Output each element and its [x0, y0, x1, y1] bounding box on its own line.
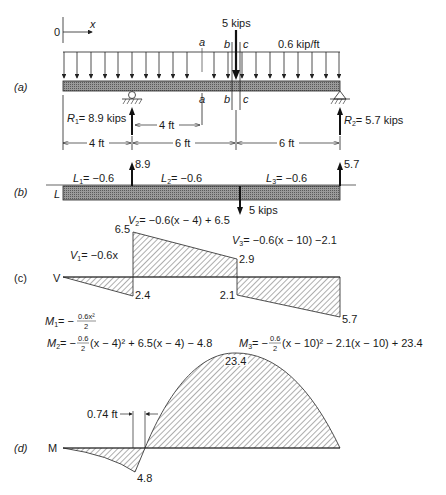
point-load-arrow-icon — [232, 70, 240, 80]
shear-value-2-9: 2.9 — [239, 253, 254, 265]
up-force-right-arrow-icon — [337, 162, 343, 170]
up-force-left-label: 8.9 — [135, 158, 150, 170]
moment-region-positive — [145, 353, 340, 448]
shear-region-2 — [133, 232, 237, 277]
panel-label-b: (b) — [14, 186, 28, 198]
down-force-arrow-icon — [237, 207, 243, 215]
shear-region-1 — [63, 277, 133, 296]
shear-eq-v1: V1= −0.6x — [70, 249, 118, 262]
down-force-label: 5 kips — [249, 204, 278, 216]
svg-text:M3= −: M3= − — [239, 337, 268, 350]
shear-value-2-4: 2.4 — [135, 289, 150, 301]
svg-text:(x − 10)² − 2.1(x − 10) + 23.4: (x − 10)² − 2.1(x − 10) + 23.4 — [282, 337, 423, 349]
moment-eq-m1: M1= − 0.6x² 2 — [45, 312, 96, 331]
zero-crossing-offset-label: 0.74 ft — [87, 408, 118, 420]
section-a-bottom: a — [199, 93, 205, 105]
panel-d-moment: (d) M M2= − 0.6 2 (x − 4)² + 6.5(x − 4) … — [14, 334, 423, 484]
reaction-r2-arrow-icon — [337, 107, 343, 115]
up-force-right-label: 5.7 — [344, 158, 359, 170]
load-l3-label: L3= −0.6 — [266, 172, 307, 185]
load-l1-label: L1= −0.6 — [73, 172, 114, 185]
pin-support-icon — [330, 91, 350, 104]
svg-text:0.6x²: 0.6x² — [78, 312, 95, 321]
panel-label-d: (d) — [14, 442, 28, 454]
section-b-bottom: b — [224, 93, 230, 105]
shear-value-2-1: 2.1 — [220, 289, 235, 301]
reaction-r1-label: R1= 8.9 kips — [67, 112, 127, 125]
dimension-6ft-middle: 6 ft — [175, 137, 190, 149]
shear-value-5-7: 5.7 — [342, 313, 357, 325]
svg-text:2: 2 — [81, 344, 85, 353]
panel-c-shear: (c) V 6.5 2.4 2.9 2.1 5.7 V1= −0.6x V2= … — [14, 214, 357, 331]
distributed-load-arrows-icon — [64, 52, 339, 78]
reaction-r1-arrow-icon — [129, 107, 135, 115]
point-load-label: 5 kips — [222, 17, 251, 29]
svg-text:M1= −: M1= − — [45, 315, 74, 328]
svg-text:(x − 4)² + 6.5(x − 4) − 4.8: (x − 4)² + 6.5(x − 4) − 4.8 — [90, 337, 212, 349]
svg-text:0.6: 0.6 — [270, 334, 280, 343]
x-axis-label: x — [89, 18, 96, 30]
panel-b: (b) L L1= −0.6 L2= −0.6 L3= −0.6 8.9 5.7… — [14, 158, 359, 216]
section-b-top: b — [224, 38, 230, 50]
load-l2-label: L2= −0.6 — [161, 172, 202, 185]
moment-axis-label: M — [48, 442, 57, 454]
shear-eq-v2: V2= −0.6(x − 4) + 6.5 — [128, 214, 230, 227]
origin-label: 0 — [54, 26, 60, 38]
beam-diagram: (a) 0 x 0.6 — [0, 0, 446, 495]
shear-axis-label: V — [53, 272, 61, 284]
shear-eq-v3: V3= −0.6(x − 10) −2.1 — [232, 234, 337, 247]
svg-text:M2= −: M2= − — [47, 337, 76, 350]
section-a-top: a — [199, 36, 205, 48]
moment-region-negative — [63, 448, 145, 472]
shear-region-3 — [237, 277, 340, 317]
roller-support-icon — [122, 92, 142, 105]
dimension-6ft-right: 6 ft — [279, 137, 294, 149]
moment-eq-m3: M3= − 0.6 2 (x − 10)² − 2.1(x − 10) + 23… — [239, 334, 423, 353]
svg-text:0.6: 0.6 — [78, 334, 88, 343]
dimension-4ft: 4 ft — [89, 137, 104, 149]
distributed-load-label: 0.6 kip/ft — [278, 38, 320, 50]
load-diagram-bar — [63, 186, 340, 200]
beam — [63, 81, 340, 91]
svg-text:2: 2 — [84, 322, 88, 331]
panel-label-a: (a) — [14, 81, 28, 93]
panel-a: (a) 0 x 0.6 — [14, 17, 404, 150]
moment-eq-m2: M2= − 0.6 2 (x − 4)² + 6.5(x − 4) − 4.8 — [47, 334, 212, 353]
section-c-bottom: c — [243, 93, 249, 105]
panel-label-c: (c) — [14, 272, 27, 284]
svg-text:2: 2 — [273, 344, 277, 353]
moment-min-value: 4.8 — [137, 472, 152, 484]
dimension-inner-4ft: 4 ft — [159, 119, 174, 131]
section-c-top: c — [243, 38, 249, 50]
moment-max-value: 23.4 — [225, 355, 246, 367]
load-axis-label: L — [54, 188, 60, 200]
reaction-r2-label: R2= 5.7 kips — [344, 114, 404, 127]
